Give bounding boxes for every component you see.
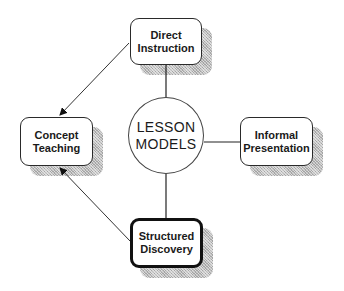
node-label-line1: Direct xyxy=(138,29,195,42)
node-informal-presentation: Informal Presentation xyxy=(240,117,313,166)
node-label-line2: Discovery xyxy=(139,243,195,256)
node-direct-instruction: Direct Instruction xyxy=(130,18,202,65)
node-label-line1: Informal xyxy=(243,129,310,142)
arrow-structured-discovery-to-concept-teaching xyxy=(60,168,130,241)
lesson-models-circle: LESSON MODELS xyxy=(128,97,204,174)
node-label-line1: Structured xyxy=(139,230,195,243)
node-label-line1: Concept xyxy=(33,129,80,142)
node-label-line2: Instruction xyxy=(138,42,195,55)
arrow-direct-instruction-to-concept-teaching xyxy=(60,43,129,115)
node-label-line2: Presentation xyxy=(243,142,310,155)
node-label-line2: Teaching xyxy=(33,142,80,155)
node-structured-discovery: Structured Discovery xyxy=(130,218,203,268)
node-concept-teaching: Concept Teaching xyxy=(20,117,93,166)
center-label-line1: LESSON xyxy=(137,119,196,136)
center-label-line2: MODELS xyxy=(136,136,197,153)
